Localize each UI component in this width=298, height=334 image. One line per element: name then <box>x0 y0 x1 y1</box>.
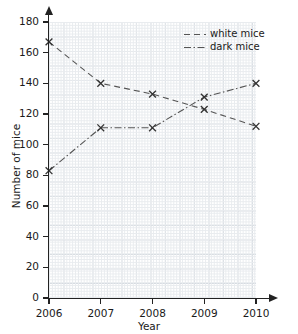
x-tick-mark <box>152 298 153 304</box>
y-tick-label: 60 <box>26 199 39 211</box>
series-line <box>49 42 256 126</box>
x-tick-mark <box>48 298 49 304</box>
legend-item: dark mice <box>184 40 265 53</box>
y-tick-label: 160 <box>19 46 39 58</box>
x-axis-title: Year <box>0 320 298 332</box>
legend-item: white mice <box>184 27 265 40</box>
y-tick-label: 80 <box>26 168 39 180</box>
series-canvas <box>49 22 256 298</box>
data-point-marker <box>253 123 260 130</box>
data-point-marker <box>201 94 208 101</box>
x-axis-arrow-icon <box>269 294 278 302</box>
plot-area <box>49 22 256 298</box>
line-chart: 020406080100120140160180 200620072008200… <box>0 0 298 334</box>
data-point-marker <box>97 80 104 87</box>
y-tick-label: 40 <box>26 230 39 242</box>
y-tick-mark <box>43 236 49 237</box>
y-tick-mark <box>43 175 49 176</box>
y-axis-arrow-icon <box>45 6 53 15</box>
y-tick-label: 0 <box>32 291 39 303</box>
y-axis-title: Number of mice <box>10 101 22 231</box>
x-tick-mark <box>255 298 256 304</box>
data-point-marker <box>201 106 208 113</box>
x-tick-mark <box>204 298 205 304</box>
x-tick-label: 2009 <box>191 307 218 319</box>
y-axis-line <box>48 14 49 299</box>
legend-line-swatch <box>184 29 206 38</box>
legend-label: dark mice <box>210 40 260 53</box>
y-tick-label: 180 <box>19 15 39 27</box>
y-tick-mark <box>43 267 49 268</box>
y-tick-mark <box>43 21 49 22</box>
x-axis-line <box>48 298 271 299</box>
x-tick-label: 2007 <box>87 307 114 319</box>
data-point-marker <box>253 80 260 87</box>
x-tick-mark <box>100 298 101 304</box>
chart-title <box>48 0 248 3</box>
x-tick-label: 2010 <box>243 307 270 319</box>
y-tick-mark <box>43 144 49 145</box>
data-point-marker <box>149 91 156 98</box>
y-tick-label: 140 <box>19 76 39 88</box>
legend: white micedark mice <box>184 27 265 53</box>
x-tick-label: 2006 <box>36 307 63 319</box>
data-point-marker <box>149 124 156 131</box>
y-tick-mark <box>43 205 49 206</box>
x-tick-label: 2008 <box>139 307 166 319</box>
y-tick-mark <box>43 113 49 114</box>
y-tick-mark <box>43 52 49 53</box>
legend-line-swatch <box>184 42 206 51</box>
legend-label: white mice <box>210 27 265 40</box>
y-tick-label: 20 <box>26 260 39 272</box>
y-tick-mark <box>43 83 49 84</box>
